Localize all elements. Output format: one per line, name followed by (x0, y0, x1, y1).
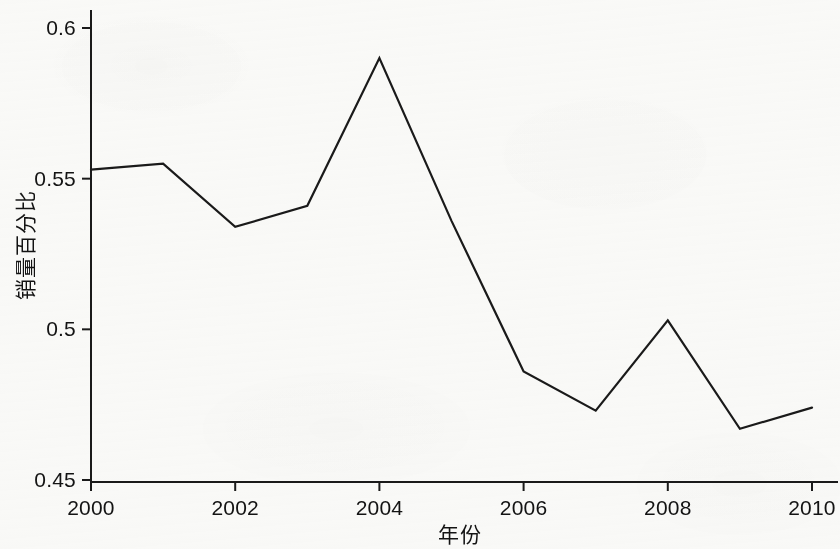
x-tick-label: 2006 (500, 496, 548, 520)
line-chart-figure: 0.60.550.50.45 200020022004200620082010 … (0, 0, 840, 549)
y-tick-label: 0.55 (34, 167, 76, 191)
x-tick-label: 2002 (211, 496, 259, 520)
x-tick-label: 2008 (644, 496, 692, 520)
chart-plot-area (0, 0, 840, 549)
y-tick-label: 0.5 (46, 317, 76, 341)
y-axis-ticks (82, 28, 91, 480)
x-tick-label: 2000 (67, 496, 115, 520)
x-axis-title: 年份 (438, 518, 482, 548)
y-tick-label: 0.6 (46, 16, 76, 40)
x-axis-ticks (91, 482, 812, 491)
x-tick-label: 2010 (788, 496, 836, 520)
y-axis-title: 销量百分比 (9, 175, 39, 315)
y-tick-label: 0.45 (34, 468, 76, 492)
x-tick-label: 2004 (356, 496, 404, 520)
data-series-line (91, 58, 812, 429)
